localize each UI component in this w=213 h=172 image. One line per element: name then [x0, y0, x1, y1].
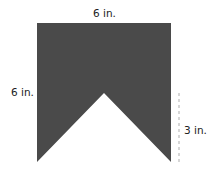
- top-dimension-label: 6 in.: [93, 7, 116, 19]
- left-dimension-label: 6 in.: [11, 86, 34, 98]
- banner-shape: [37, 23, 171, 162]
- notch-dimension-label: 3 in.: [184, 124, 207, 136]
